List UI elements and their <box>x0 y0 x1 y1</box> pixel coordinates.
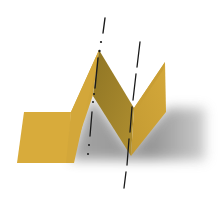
left-flat-panel <box>17 112 71 163</box>
folded-strip-diagram: folded paper strip with fold axes <box>0 0 224 202</box>
diagram-canvas <box>0 0 224 202</box>
